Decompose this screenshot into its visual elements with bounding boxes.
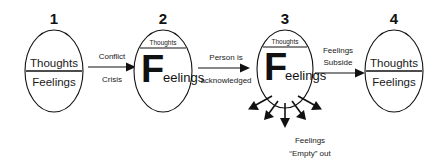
connector-person-acknowledged-group: Person is acknowledged	[198, 53, 252, 85]
venting-caption-group: Feelings “Empty” out	[289, 136, 331, 158]
venting-arrow-3-head	[280, 118, 290, 128]
venting-arrow-4-head	[296, 110, 306, 120]
stage-2-number: 2	[159, 10, 167, 27]
venting-arrow-1-head	[248, 101, 259, 110]
connector-feelings-subside-group: Feelings Subside	[315, 46, 365, 78]
stage-4-number: 4	[390, 10, 399, 27]
diagram-canvas: 1 Thoughts Feelings Conflict Crisis 2 Th…	[0, 0, 436, 166]
venting-caption-line2: “Empty” out	[289, 149, 331, 158]
thoughts-feelings-diagram: 1 Thoughts Feelings Conflict Crisis 2 Th…	[0, 0, 436, 166]
stage-2-feelings-capital: F	[141, 48, 164, 90]
stage-3-thoughts-label: Thoughts	[271, 38, 299, 46]
venting-caption-line1: Feelings	[295, 136, 325, 145]
stage-3-feelings-capital: F	[264, 46, 287, 88]
connector-feelings-subside-line1: Feelings	[323, 46, 353, 55]
stage-2-thoughts-label: Thoughts	[149, 39, 177, 47]
connector-conflict-crisis-group: Conflict Crisis	[88, 52, 136, 84]
stage-3-feelings-rest: eelings	[285, 68, 327, 83]
connector-person-acknowledged-line2: acknowledged	[200, 76, 251, 85]
stage-2-group: 2 Thoughts F eelings	[134, 10, 205, 112]
connector-feelings-subside-arrowhead	[355, 69, 365, 78]
venting-arrow-2-head	[264, 110, 274, 120]
stage-1-thoughts-label: Thoughts	[30, 57, 78, 69]
connector-person-acknowledged-line1: Person is	[209, 53, 242, 62]
stage-3-group: 3 Thoughts F eelings	[248, 10, 327, 128]
stage-4-group: 4 Thoughts Feelings	[365, 10, 423, 112]
connector-conflict-crisis-line1: Conflict	[99, 52, 126, 61]
connector-conflict-crisis-line2: Crisis	[102, 75, 122, 84]
stage-3-number: 3	[281, 10, 289, 27]
stage-1-number: 1	[50, 10, 58, 27]
connector-person-acknowledged-arrowhead	[240, 64, 250, 73]
connector-feelings-subside-line2: Subside	[324, 58, 353, 67]
venting-arrow-5-head	[311, 101, 322, 110]
stage-2-feelings-rest: eelings	[163, 70, 205, 85]
stage-1-group: 1 Thoughts Feelings	[25, 10, 83, 112]
stage-1-feelings-label: Feelings	[32, 76, 76, 88]
stage-4-feelings-label: Feelings	[372, 76, 416, 88]
stage-4-thoughts-label: Thoughts	[370, 57, 418, 69]
